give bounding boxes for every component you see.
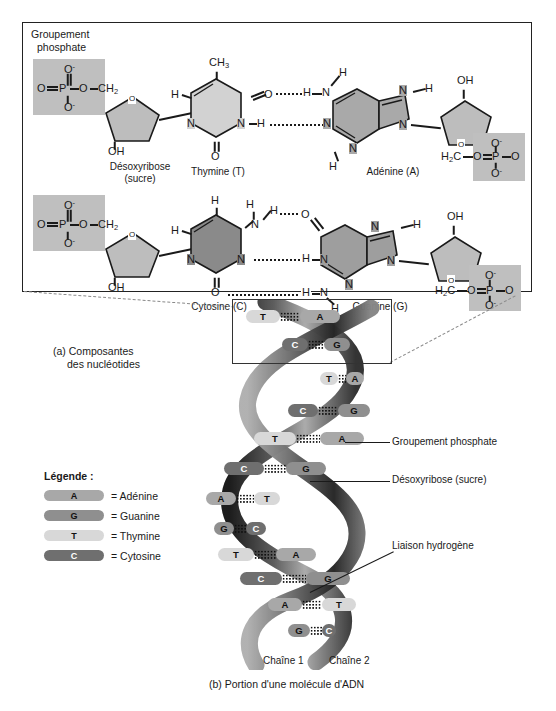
atom-h-adenine-8: H <box>425 83 433 94</box>
bond <box>47 222 58 224</box>
base-right: T <box>322 598 356 611</box>
atom-n-guanine-9: N <box>387 255 395 266</box>
base-left: C <box>288 404 318 417</box>
atom-o-double-left: O <box>37 83 46 94</box>
bond <box>489 280 491 287</box>
bond <box>47 86 58 88</box>
bond <box>463 90 465 99</box>
deoxyribose-label-line1: Désoxyribose <box>110 161 171 172</box>
base-left: C <box>282 338 308 351</box>
bond <box>214 142 216 152</box>
bond <box>483 158 492 160</box>
base-right: G <box>324 338 350 351</box>
atom-o-ring-top-right: O <box>457 139 465 150</box>
phosphate-label-line1: Groupement <box>31 28 89 41</box>
hydrogen-bond-cg-2 <box>253 259 303 261</box>
base-pair-row: A T <box>206 492 280 505</box>
bond <box>453 226 455 235</box>
atom-o-minus-bottom-top: O- <box>64 99 75 113</box>
chain-1-label: Chaîne 1 <box>263 655 304 666</box>
bond <box>67 96 69 104</box>
hydrogen-bond-rung <box>308 340 324 349</box>
bond <box>477 288 486 290</box>
atom-h-thymine-n3: H <box>257 118 265 129</box>
atom-o-double-bottom-left: O <box>37 219 46 230</box>
atom-oh-top-right: OH <box>457 75 474 86</box>
base-right: T <box>254 492 280 505</box>
base-pair-row: A T <box>268 598 356 611</box>
atom-h-thymine-left: H <box>171 89 179 100</box>
hydrogen-bond-rung <box>282 574 306 583</box>
atom-p-top: P <box>59 83 66 94</box>
bond <box>218 278 220 288</box>
atom-n-guanine-1: N <box>320 254 328 265</box>
bond <box>249 123 257 125</box>
base-right: A <box>276 548 316 561</box>
atom-n-guanine-3: N <box>345 279 353 290</box>
bond <box>457 290 467 292</box>
base-left: G <box>288 624 310 637</box>
base-right: A <box>300 310 340 323</box>
atom-oh-bottom-right: OH <box>447 211 464 222</box>
base-pair-row: T A <box>218 548 316 561</box>
callout-line-deoxyribose <box>310 481 390 482</box>
atom-h-adenine-amino: H <box>339 67 347 78</box>
bond <box>67 74 69 86</box>
atom-o-bridge-bottom-right: O <box>467 285 476 296</box>
bond <box>70 210 72 222</box>
hydrogen-bond-rung <box>302 600 322 609</box>
atom-h2c-top-right: H2C <box>441 151 461 165</box>
thymine-ring <box>183 75 249 149</box>
atom-n-cytosine-1: N <box>187 254 195 265</box>
atom-n-adenine-3: N <box>349 143 357 154</box>
base-right: G <box>338 404 370 417</box>
base-left: C <box>240 572 282 585</box>
caption-a-line2: des nucléotides <box>53 358 140 371</box>
hydrogen-bond-ta-2 <box>269 124 323 126</box>
hydrogen-bond-rung <box>234 524 246 533</box>
bond <box>47 225 58 227</box>
bond <box>214 278 216 288</box>
deoxyribose-label: Désoxyribose (sucre) <box>85 161 195 185</box>
legend-chip-t: T <box>44 530 104 541</box>
base-left: A <box>268 598 302 611</box>
chain-2-label: Chaîne 2 <box>329 655 370 666</box>
hydrogen-bond-rung <box>236 494 254 503</box>
base-right: A <box>320 432 364 445</box>
bond <box>70 224 79 226</box>
dna-double-helix <box>196 300 426 670</box>
base-right: G <box>286 462 326 475</box>
base-right: C <box>246 522 266 535</box>
atom-o-ring-top-left: O <box>128 93 136 104</box>
atom-o-bottom-right-end: O <box>505 285 514 296</box>
base-left: A <box>206 492 236 505</box>
atom-n-guanine-7: N <box>371 221 379 232</box>
legend-item-guanine: G = Guanine <box>44 508 161 523</box>
legend-label-adenine: = Adénine <box>111 490 158 502</box>
bond <box>253 212 255 220</box>
base-right: C <box>322 624 336 637</box>
caption-a-line1: (a) Composantes <box>53 345 134 357</box>
legend-chip-g: G <box>44 510 104 521</box>
phosphate-label-line2: phosphate <box>31 41 89 54</box>
adenine-label: Adénine (A) <box>353 166 433 178</box>
legend-title: Légende : <box>44 470 161 482</box>
atom-n-thymine-3: N <box>237 118 245 129</box>
atom-n-thymine-1: N <box>187 118 195 129</box>
bond <box>67 232 69 240</box>
atom-h-guanine-8: H <box>413 219 421 230</box>
base-pair-row: C G <box>224 462 326 475</box>
callout-line-phosphate <box>345 442 390 443</box>
cytosine-ring <box>183 211 249 285</box>
legend-item-thymine: T = Thymine <box>44 528 161 543</box>
bond <box>114 278 116 286</box>
legend-label-thymine: = Thymine <box>111 530 160 542</box>
atom-o-bridge-bottom: O <box>79 219 88 230</box>
base-pair-row: C G <box>282 338 350 351</box>
bond <box>413 88 426 93</box>
base-right: A <box>346 372 364 385</box>
atom-o-bridge-top-right: O <box>473 151 482 162</box>
hydrogen-bond-rung <box>280 312 300 321</box>
atom-oh-bottom-left: OH <box>108 282 125 293</box>
atom-o-thymine-bottom: O <box>211 151 220 162</box>
